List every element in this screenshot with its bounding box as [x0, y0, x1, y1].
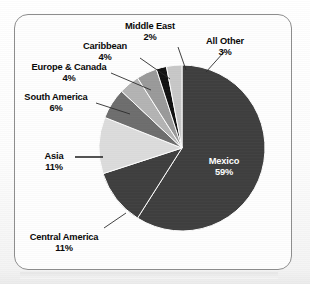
slice-label-europe-canada: Europe & Canada 4% [28, 62, 110, 83]
slice-label-mexico-pct: 59% [196, 167, 252, 178]
slice-label-caribbean-name: Caribbean [83, 41, 127, 51]
slice-label-all-other-name: All Other [206, 36, 244, 46]
slice-label-middle-east-name: Middle East [125, 21, 175, 31]
slice-label-caribbean: Caribbean 4% [74, 41, 136, 62]
slice-label-mexico: Mexico 59% [196, 156, 252, 177]
slice-label-europe-canada-name: Europe & Canada [31, 62, 106, 72]
slice-label-central-america-pct: 11% [22, 243, 106, 254]
slice-label-middle-east: Middle East 2% [107, 21, 193, 42]
slice-label-asia-name: Asia [44, 151, 63, 161]
slice-label-central-america: Central America 11% [22, 232, 106, 253]
pie-slices [99, 65, 265, 231]
slice-label-asia-pct: 11% [37, 162, 71, 173]
slice-label-all-other-pct: 3% [194, 47, 256, 58]
slice-label-asia: Asia 11% [37, 151, 71, 172]
scan-shadow [20, 272, 278, 279]
slice-label-caribbean-pct: 4% [74, 52, 136, 63]
slice-label-europe-canada-pct: 4% [28, 73, 110, 84]
slice-label-mexico-name: Mexico [209, 156, 240, 166]
slice-label-south-america-pct: 6% [18, 103, 94, 114]
leader-line-central-america [104, 213, 126, 228]
slice-label-south-america-name: South America [24, 92, 87, 102]
slice-label-south-america: South America 6% [18, 92, 94, 113]
slice-label-all-other: All Other 3% [194, 36, 256, 57]
slice-label-central-america-name: Central America [30, 232, 99, 242]
